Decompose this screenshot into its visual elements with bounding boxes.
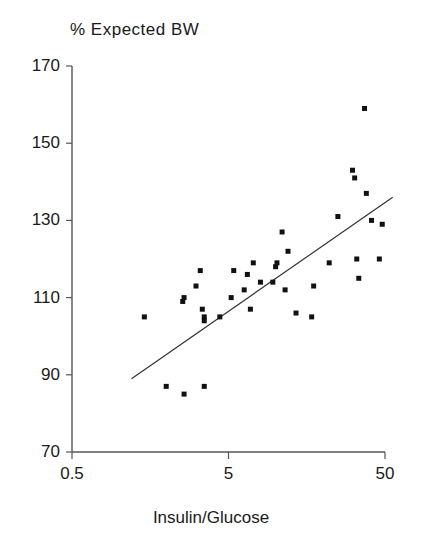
data-point — [182, 392, 187, 397]
y-axis-ticks — [66, 66, 72, 452]
data-point — [364, 191, 369, 196]
x-axis-tick-label: 5 — [224, 464, 233, 484]
y-axis-tick-label: 70 — [8, 442, 60, 462]
data-point — [311, 284, 316, 289]
data-point — [231, 268, 236, 273]
data-point — [248, 307, 253, 312]
data-point — [245, 272, 250, 277]
data-point — [327, 260, 332, 265]
data-point — [251, 260, 256, 265]
data-point — [194, 284, 199, 289]
y-axis-tick-label: 90 — [8, 365, 60, 385]
data-point — [229, 295, 234, 300]
y-axis-tick-label: 130 — [8, 210, 60, 230]
data-point — [217, 314, 222, 319]
y-axis-tick-label: 170 — [8, 56, 60, 76]
data-point — [350, 168, 355, 173]
regression-line-path — [132, 197, 393, 378]
axis-lines — [72, 66, 385, 452]
data-point — [283, 287, 288, 292]
data-point — [258, 280, 263, 285]
data-point — [200, 307, 205, 312]
regression-line — [132, 197, 393, 378]
data-point — [294, 311, 299, 316]
data-point — [202, 384, 207, 389]
data-point — [335, 214, 340, 219]
y-axis-tick-label: 110 — [8, 288, 60, 308]
y-axis-tick-label: 150 — [8, 133, 60, 153]
data-point — [198, 268, 203, 273]
data-point — [270, 280, 275, 285]
x-axis-ticks — [72, 452, 385, 459]
x-axis-tick-label: 50 — [376, 464, 395, 484]
data-point — [142, 314, 147, 319]
data-point — [380, 222, 385, 227]
data-point — [309, 314, 314, 319]
data-points — [142, 106, 385, 397]
data-point — [362, 106, 367, 111]
data-point — [356, 276, 361, 281]
data-point — [286, 249, 291, 254]
data-point — [369, 218, 374, 223]
data-point — [182, 295, 187, 300]
data-point — [164, 384, 169, 389]
x-axis-label: Insulin/Glucose — [0, 508, 422, 528]
data-point — [202, 318, 207, 323]
data-point — [352, 175, 357, 180]
data-point — [280, 229, 285, 234]
scatter-chart-figure: % Expected BW 7090110130150170 0.5550 In… — [0, 0, 422, 548]
data-point — [377, 257, 382, 262]
data-point — [274, 260, 279, 265]
x-axis-tick-label: 0.5 — [60, 464, 84, 484]
data-point — [354, 257, 359, 262]
data-point — [242, 287, 247, 292]
